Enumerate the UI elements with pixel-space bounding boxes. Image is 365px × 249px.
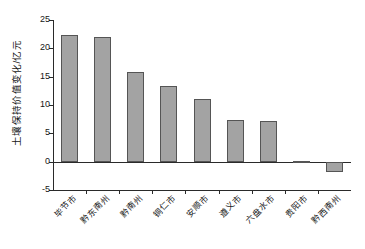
bar	[194, 99, 211, 162]
y-axis-title: 土壤保持价值变化/亿元	[6, 0, 26, 186]
bars-group	[53, 20, 351, 190]
y-tick-label: 25	[40, 14, 50, 24]
y-tick-label: 0	[45, 156, 50, 166]
y-tick-label: 10	[40, 99, 50, 109]
bar	[293, 161, 310, 163]
y-tick-label: 20	[40, 42, 50, 52]
bar	[160, 86, 177, 162]
y-tick-label: -5	[42, 184, 50, 194]
bar	[127, 72, 144, 162]
bar	[260, 121, 277, 162]
y-tick-label: 15	[40, 71, 50, 81]
y-axis-title-text: 土壤保持价值变化/亿元	[9, 40, 23, 146]
bar	[326, 162, 343, 173]
bar-chart: 土壤保持价值变化/亿元 -50510152025 毕节市黔东南州黔南州铜仁市安顺…	[0, 0, 365, 249]
bar	[94, 37, 111, 162]
bar	[61, 35, 78, 161]
bar	[227, 120, 244, 162]
x-axis-category-labels: 毕节市黔东南州黔南州铜仁市安顺市遵义市六盘水市贵阳市黔西南州	[53, 191, 365, 249]
y-tick-label: 5	[45, 127, 50, 137]
plot-area: -50510152025	[53, 20, 351, 190]
